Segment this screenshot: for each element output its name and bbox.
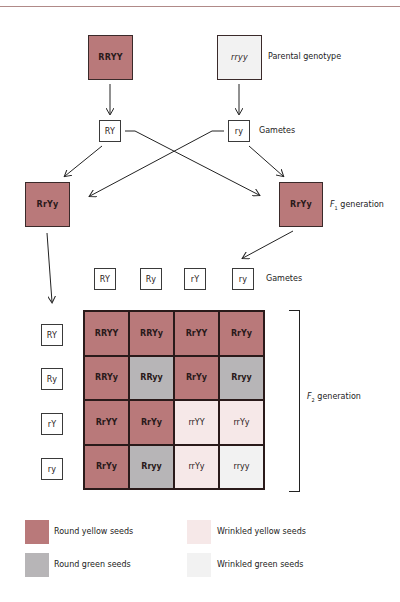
f2-label-suffix: generation: [315, 392, 361, 401]
punnett-cell: rryy: [219, 445, 264, 490]
punnett-cell: RrYy: [129, 400, 174, 445]
col-gamete-1: RY: [94, 268, 116, 290]
row-gamete-2-text: Ry: [47, 375, 57, 384]
f1-right-box: RrYy: [279, 182, 323, 227]
punnett-cell: RrYy: [219, 311, 264, 356]
gametes-label-top: Gametes: [259, 126, 295, 135]
punnett-cell: RrYY: [174, 311, 219, 356]
col-gamete-3-text: rY: [191, 275, 200, 284]
arrows-layer: [0, 0, 400, 602]
f1-generation-label: F1 generation: [330, 200, 384, 211]
row-gamete-1-text: RY: [47, 331, 57, 340]
parent-left-box: RRYY: [88, 35, 133, 80]
gamete-left-box: RY: [99, 120, 121, 142]
cell-genotype: rrYy: [233, 418, 249, 427]
cell-genotype: RRYy: [140, 329, 163, 338]
punnett-cell: RrYy: [174, 356, 219, 401]
row-gamete-3: rY: [41, 413, 63, 435]
legend-label-round-green: Round green seeds: [54, 560, 131, 569]
row-gamete-4: ry: [41, 458, 63, 480]
cell-genotype: rrYY: [188, 418, 204, 427]
cell-genotype: Rryy: [231, 373, 252, 382]
punnett-square: RRYY RRYy RrYY RrYy RRYy RRyy RrYy Rryy …: [83, 310, 265, 490]
legend-label-wrinkled-yellow: Wrinkled yellow seeds: [217, 527, 306, 536]
cell-genotype: RrYy: [186, 373, 207, 382]
punnett-cell: rrYy: [174, 445, 219, 490]
cell-genotype: RrYY: [186, 329, 208, 338]
row-gamete-3-text: rY: [48, 420, 57, 429]
punnett-cell: rrYY: [174, 400, 219, 445]
cell-genotype: rrYy: [188, 462, 204, 471]
col-gamete-2: Ry: [140, 268, 162, 290]
f2-generation-label: F2 generation: [307, 392, 361, 403]
punnett-cell: rrYy: [219, 400, 264, 445]
legend-swatch-round-yellow: [25, 520, 49, 544]
legend-swatch-round-green: [25, 553, 49, 577]
gamete-right-text: ry: [235, 127, 243, 136]
f1-left-genotype: RrYy: [37, 200, 59, 209]
f2-bracket: [289, 310, 300, 492]
row-gamete-2: Ry: [41, 368, 63, 390]
col-gamete-1-text: RY: [100, 275, 110, 284]
col-gamete-4: ry: [232, 268, 254, 290]
cell-genotype: RRYy: [95, 373, 118, 382]
gamete-left-text: RY: [105, 127, 115, 136]
cell-genotype: Rryy: [141, 462, 162, 471]
punnett-cell: RRYY: [84, 311, 129, 356]
punnett-cell: Rryy: [129, 445, 174, 490]
gametes-label-bottom: Gametes: [266, 274, 302, 283]
legend-swatch-wrinkled-yellow: [187, 520, 211, 544]
f1-right-genotype: RrYy: [290, 200, 312, 209]
punnett-cell: RRYy: [129, 311, 174, 356]
parent-right-genotype: rryy: [231, 53, 248, 62]
row-gamete-4-text: ry: [48, 465, 56, 474]
cell-genotype: RrYY: [96, 418, 118, 427]
cell-genotype: RRyy: [140, 373, 162, 382]
row-gamete-1: RY: [41, 324, 63, 346]
legend-label-round-yellow: Round yellow seeds: [54, 527, 133, 536]
cell-genotype: rryy: [234, 462, 250, 471]
punnett-cell: Rryy: [219, 356, 264, 401]
punnett-cell: RrYy: [84, 445, 129, 490]
col-gamete-2-text: Ry: [146, 275, 156, 284]
legend-swatch-wrinkled-green: [187, 553, 211, 577]
punnett-cell: RRyy: [129, 356, 174, 401]
cell-genotype: RrYy: [96, 462, 117, 471]
cell-genotype: RrYy: [231, 329, 252, 338]
gamete-right-box: ry: [228, 120, 250, 142]
parental-genotype-label: Parental genotype: [268, 52, 341, 61]
parent-right-box: rryy: [217, 35, 262, 80]
legend-label-wrinkled-green: Wrinkled green seeds: [217, 560, 303, 569]
punnett-cell: RRYy: [84, 356, 129, 401]
f1-label-suffix: generation: [338, 200, 384, 209]
col-gamete-4-text: ry: [239, 275, 247, 284]
punnett-cell: RrYY: [84, 400, 129, 445]
f1-left-box: RrYy: [25, 182, 70, 227]
col-gamete-3: rY: [184, 268, 206, 290]
cell-genotype: RrYy: [141, 418, 162, 427]
cell-genotype: RRYY: [95, 329, 118, 338]
parent-left-genotype: RRYY: [98, 53, 122, 62]
